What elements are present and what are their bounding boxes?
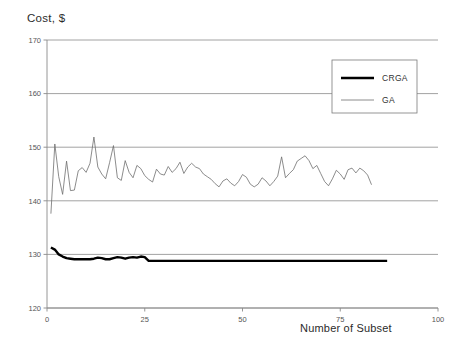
cost-vs-subset-chart: Cost, $ 120130140150160170 0255075100 CR… bbox=[0, 0, 457, 348]
series-line-ga bbox=[51, 137, 372, 214]
data-series-group bbox=[51, 137, 387, 261]
y-tick-label: 170 bbox=[28, 36, 41, 45]
x-tick-label: 25 bbox=[141, 315, 149, 324]
legend-label-ga: GA bbox=[382, 95, 395, 105]
y-tick-label: 130 bbox=[28, 250, 41, 259]
y-tick-labels-group: 120130140150160170 bbox=[28, 36, 47, 313]
legend-label-crga: CRGA bbox=[382, 73, 408, 83]
x-tick-label: 0 bbox=[45, 315, 49, 324]
x-tick-label: 50 bbox=[238, 315, 246, 324]
y-tick-label: 140 bbox=[28, 197, 41, 206]
chart-plot-area: 120130140150160170 0255075100 CRGAGA bbox=[0, 0, 457, 348]
y-tick-label: 120 bbox=[28, 304, 41, 313]
x-axis-title: Number of Subset bbox=[300, 322, 392, 334]
y-tick-label: 160 bbox=[28, 89, 41, 98]
y-tick-label: 150 bbox=[28, 143, 41, 152]
legend-box bbox=[332, 60, 417, 113]
x-tick-label: 100 bbox=[432, 315, 445, 324]
legend-group: CRGAGA bbox=[332, 60, 417, 113]
